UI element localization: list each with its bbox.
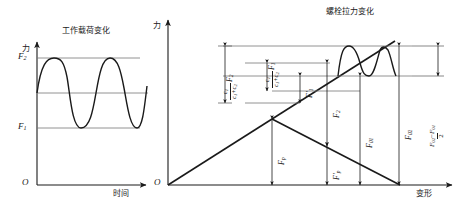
left-chart-tick-F2: F2 — [18, 52, 27, 61]
F2-base: F — [332, 113, 341, 118]
left-chart-x-axis-label: 时间 — [113, 190, 129, 198]
left-chart-reference-lines — [37, 58, 148, 128]
Fprimep-base: F — [332, 175, 341, 180]
frac2-num-c: c — [263, 79, 271, 82]
frac-factor-F1-sub: 1 — [270, 62, 276, 65]
frac3-num-F01-sub: 01 — [431, 125, 436, 130]
frac-factor-F2-sub: 2 — [228, 74, 234, 77]
annotation-c1-frac-F2: c1 c1+c2 F2 — [214, 74, 239, 100]
frac-num-c-sub: 1 — [224, 89, 229, 91]
frac3-num-F02: F — [428, 143, 436, 147]
frac3-num-F01: F — [428, 130, 436, 134]
right-chart-x-axis-label: 变形 — [416, 190, 432, 198]
F01-sub: 01 — [368, 138, 374, 143]
frac-den-c2: c — [230, 86, 238, 89]
bolt-force-diagram: 工作载荷变化 力 时间 O F2 F1 螺栓拉力变化 力 变形 O c1 c1+… — [0, 0, 466, 214]
left-tick-F1-sub: 1 — [24, 125, 27, 131]
annotation-F02: F02 — [405, 130, 414, 140]
frac-factor-F1: F — [267, 65, 276, 70]
frac-c1-over-c1c2-for-F2: c1 c1+c2 — [222, 83, 239, 100]
right-chart-level-lines — [223, 46, 412, 103]
F02-base: F — [404, 135, 413, 140]
frac-den-c1: c — [230, 96, 238, 99]
frac-den-c2-sub: 2 — [233, 84, 238, 86]
frac2-den-c1: c — [272, 84, 280, 87]
Fp-base: F — [277, 160, 286, 165]
Fprime1-prime: ′ — [305, 91, 314, 93]
frac2-num-c-sub: 1 — [266, 77, 271, 79]
frac2-den-c2-sub: 2 — [275, 72, 280, 74]
left-chart-origin-label: O — [22, 178, 29, 187]
Fprimep-sub: p — [335, 171, 341, 174]
frac2-den-plus: + — [272, 78, 280, 82]
annotation-F-prime-1: F′1 — [306, 89, 315, 98]
left-chart-tick-F1: F1 — [18, 122, 27, 131]
right-chart-title: 螺栓拉力变化 — [326, 8, 374, 16]
frac-F02-F01-over-2: F02−F01 2 — [429, 124, 445, 148]
annotation-F-prime-p: F′p — [333, 171, 342, 180]
annotation-c1-frac-F1: c1 c1+c2 F1 — [256, 62, 281, 88]
F02-sub: 02 — [407, 130, 413, 135]
frac3-den-2: 2 — [437, 133, 445, 139]
right-chart-y-axis-label: 力 — [153, 22, 161, 30]
frac3-minus: − — [428, 134, 436, 138]
frac-c1-over-c1c2-for-F1: c1 c1+c2 — [264, 71, 281, 88]
annotation-F02-minus-F01-over-2: F02−F01 2 — [428, 124, 445, 148]
left-chart-title: 工作载荷变化 — [62, 27, 110, 35]
annotation-F01: F01 — [366, 138, 375, 148]
dim-arrow-F02-F01-half — [412, 46, 444, 76]
frac-factor-F2: F — [225, 77, 234, 82]
F2-sub: 2 — [335, 110, 341, 113]
frac3-num-F02-sub: 02 — [431, 138, 436, 143]
annotation-F2: F2 — [333, 110, 342, 118]
left-tick-F2-sub: 2 — [24, 55, 27, 61]
Fprime1-base: F — [305, 93, 314, 98]
frac-num-c: c — [221, 91, 229, 94]
annotation-Fp: Fp — [278, 157, 287, 165]
F01-base: F — [365, 143, 374, 148]
frac2-den-c2: c — [272, 74, 280, 77]
Fprime1-sub: 1 — [308, 89, 314, 92]
frac-den-plus: + — [230, 90, 238, 94]
Fp-sub: p — [280, 157, 286, 160]
right-chart-axes — [168, 20, 452, 185]
Fprimep-prime: ′ — [332, 173, 341, 175]
right-chart-origin-label: O — [154, 178, 161, 187]
